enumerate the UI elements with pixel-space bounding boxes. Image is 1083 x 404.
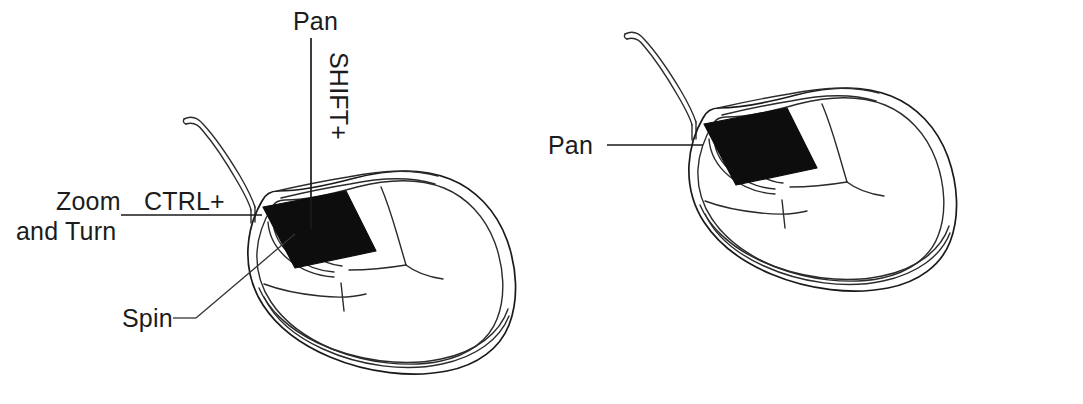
left-mouse-side-seams: [264, 283, 366, 311]
label-ctrl-modifier: CTRL+: [144, 187, 225, 215]
label-shift-modifier: SHIFT+: [325, 52, 353, 140]
left-mouse-figure: Pan SHIFT+ CTRL+ Zoom and Turn Spin: [16, 7, 516, 374]
left-mouse-body-outline: [248, 171, 516, 374]
mouse-controls-diagram: Pan SHIFT+ CTRL+ Zoom and Turn Spin: [0, 0, 1083, 404]
label-pan-top: Pan: [293, 7, 338, 35]
label-zoom-line1: Zoom: [56, 187, 121, 215]
label-zoom-line2: and Turn: [16, 217, 116, 245]
right-mouse-figure: Pan: [548, 32, 957, 291]
left-mouse-top-seam: [277, 171, 438, 198]
label-spin: Spin: [122, 304, 173, 332]
right-mouse-side-seams: [705, 200, 807, 228]
mouse-diagram-canvas: Pan SHIFT+ CTRL+ Zoom and Turn Spin: [0, 0, 1083, 404]
left-mouse-scroll-wheel: [263, 191, 376, 268]
right-mouse-body-outline: [689, 88, 957, 291]
label-pan-right: Pan: [548, 131, 593, 159]
right-mouse-scroll-wheel: [704, 108, 817, 185]
right-mouse-top-seam: [718, 88, 879, 115]
right-mouse-cable: [624, 32, 696, 140]
